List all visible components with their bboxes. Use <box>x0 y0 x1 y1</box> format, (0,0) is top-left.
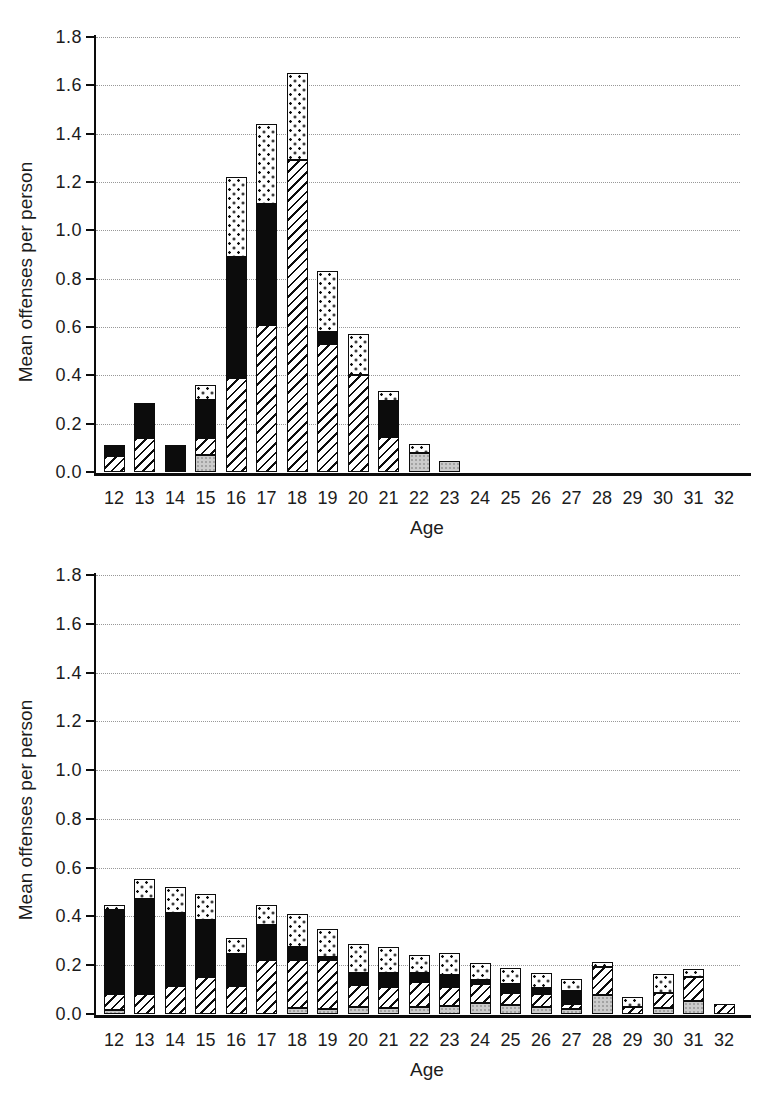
x-tick-label-12: 12 <box>98 489 130 507</box>
x-axis-title: Age <box>397 518 457 537</box>
bar-age-13-diagonal-hatch <box>134 438 155 472</box>
gridline-0.8 <box>96 819 740 820</box>
x-tick-label-16: 16 <box>220 489 252 507</box>
bar-age-16-solid-black <box>226 257 247 378</box>
x-tick-label-31: 31 <box>678 1031 710 1049</box>
gridline-1.8 <box>96 575 740 576</box>
x-tick-label-29: 29 <box>617 489 649 507</box>
bar-age-27-solid-black <box>561 991 582 1004</box>
bar-age-31-light-gray-stipple <box>683 1001 704 1014</box>
bar-age-15-solid-black <box>195 400 216 439</box>
y-tick-label-0.4: 0.4 <box>36 907 82 925</box>
x-tick-label-18: 18 <box>281 489 313 507</box>
bar-age-20-solid-black <box>348 973 369 985</box>
bar-age-21-light-gray-stipple <box>378 1008 399 1014</box>
y-tick-1.4 <box>86 133 94 135</box>
y-tick-0.2 <box>86 423 94 425</box>
bar-age-16-white-polka-dot <box>226 177 247 257</box>
y-tick-label-0.8: 0.8 <box>36 270 82 288</box>
bar-age-14-solid-black <box>165 445 186 472</box>
bar-age-15-diagonal-hatch <box>195 977 216 1014</box>
bar-age-15-solid-black <box>195 920 216 977</box>
bar-age-18-solid-black <box>287 947 308 960</box>
bar-age-16-diagonal-hatch <box>226 378 247 472</box>
bar-age-18-light-gray-stipple <box>287 1008 308 1014</box>
y-tick-0.8 <box>86 278 94 280</box>
y-tick-label-0.6: 0.6 <box>36 318 82 336</box>
y-tick-1.0 <box>86 769 94 771</box>
y-tick-label-1.6: 1.6 <box>36 615 82 633</box>
x-tick-label-14: 14 <box>159 1031 191 1049</box>
bar-age-25-solid-black <box>500 984 521 994</box>
bar-age-24-white-polka-dot <box>470 963 491 980</box>
x-tick-label-24: 24 <box>464 1031 496 1049</box>
x-tick-label-17: 17 <box>251 489 283 507</box>
x-tick-label-30: 30 <box>647 489 679 507</box>
x-tick-label-32: 32 <box>708 489 740 507</box>
y-tick-label-0.4: 0.4 <box>36 366 82 384</box>
bar-age-17-white-polka-dot <box>256 905 277 925</box>
y-tick-1.8 <box>86 36 94 38</box>
gridline-1.4 <box>96 134 740 135</box>
bar-age-15-light-gray-stipple <box>195 455 216 472</box>
x-tick-label-31: 31 <box>678 489 710 507</box>
bar-age-18-white-polka-dot <box>287 914 308 947</box>
y-tick-0.8 <box>86 818 94 820</box>
x-tick-label-18: 18 <box>281 1031 313 1049</box>
bar-age-16-solid-black <box>226 954 247 986</box>
bar-age-12-solid-black <box>104 910 125 994</box>
bar-age-27-diagonal-hatch <box>561 1004 582 1009</box>
bar-age-30-white-polka-dot <box>653 974 674 993</box>
x-tick-label-19: 19 <box>312 489 344 507</box>
bar-age-21-solid-black <box>378 973 399 987</box>
x-tick-label-22: 22 <box>403 1031 435 1049</box>
gridline-0.2 <box>96 424 740 425</box>
bar-age-15-white-polka-dot <box>195 385 216 400</box>
bar-age-21-solid-black <box>378 401 399 437</box>
y-tick-label-0.2: 0.2 <box>36 956 82 974</box>
y-tick-0.4 <box>86 374 94 376</box>
y-tick-label-0.8: 0.8 <box>36 810 82 828</box>
bar-age-12-diagonal-hatch <box>104 994 125 1010</box>
bar-age-14-diagonal-hatch <box>165 986 186 1014</box>
y-tick-label-1.0: 1.0 <box>36 761 82 779</box>
bar-age-24-light-gray-stipple <box>470 1003 491 1014</box>
bar-age-15-diagonal-hatch <box>195 438 216 455</box>
bar-age-22-white-polka-dot <box>409 955 430 972</box>
x-tick-label-20: 20 <box>342 489 374 507</box>
bar-age-26-light-gray-stipple <box>531 1007 552 1014</box>
bar-age-19-diagonal-hatch <box>317 344 338 472</box>
x-tick-label-15: 15 <box>190 489 222 507</box>
bar-age-23-light-gray-stipple <box>439 461 460 472</box>
x-tick-label-26: 26 <box>525 1031 557 1049</box>
gridline-1.2 <box>96 182 740 183</box>
gridline-0.6 <box>96 868 740 869</box>
x-tick-label-23: 23 <box>434 1031 466 1049</box>
bar-age-12-diagonal-hatch <box>104 456 125 472</box>
x-tick-label-30: 30 <box>647 1031 679 1049</box>
y-axis-title: Mean offenses per person <box>15 590 37 1030</box>
y-tick-label-0.2: 0.2 <box>36 415 82 433</box>
bar-age-22-light-gray-stipple <box>409 1007 430 1014</box>
gridline-0.8 <box>96 279 740 280</box>
x-tick-label-21: 21 <box>373 1031 405 1049</box>
y-tick-0.2 <box>86 964 94 966</box>
x-tick-label-22: 22 <box>403 489 435 507</box>
bar-age-24-solid-black <box>470 980 491 984</box>
bar-age-28-diagonal-hatch <box>592 967 613 995</box>
bar-age-15-white-polka-dot <box>195 894 216 920</box>
x-tick-label-15: 15 <box>190 1031 222 1049</box>
x-tick-label-25: 25 <box>495 1031 527 1049</box>
x-axis-line <box>94 1015 751 1018</box>
bar-age-23-white-polka-dot <box>439 953 460 975</box>
x-tick-label-32: 32 <box>708 1031 740 1049</box>
gridline-1.0 <box>96 230 740 231</box>
bar-age-23-light-gray-stipple <box>439 1006 460 1014</box>
bar-age-16-white-polka-dot <box>226 938 247 954</box>
y-tick-1.8 <box>86 574 94 576</box>
bar-age-22-solid-black <box>409 973 430 983</box>
bar-age-18-white-polka-dot <box>287 73 308 160</box>
bar-age-12-solid-black <box>104 445 125 456</box>
bar-age-21-white-polka-dot <box>378 391 399 401</box>
bar-age-20-light-gray-stipple <box>348 1007 369 1014</box>
